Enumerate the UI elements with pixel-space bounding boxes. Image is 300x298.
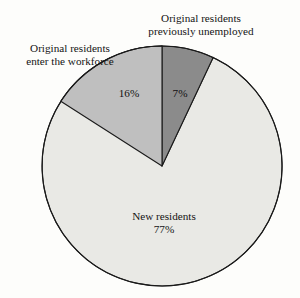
slice-label-previously-unemployed: Original residents previously unemployed <box>126 12 276 39</box>
slice-label-enter-workforce: Original residents enter the workforce <box>2 42 138 69</box>
slice-label-new-residents-line1: New residents <box>108 210 220 223</box>
slice-label-previously-unemployed-line2: previously unemployed <box>126 25 276 38</box>
chart-canvas: Original residents previously unemployed… <box>0 0 300 298</box>
slice-label-enter-workforce-line1: Original residents <box>2 42 138 55</box>
slice-label-new-residents: New residents 77% <box>108 210 220 237</box>
slice-value-previously-unemployed: 7% <box>166 87 194 100</box>
slice-label-previously-unemployed-line1: Original residents <box>126 12 276 25</box>
slice-label-new-residents-value: 77% <box>108 223 220 236</box>
slice-label-enter-workforce-line2: enter the workforce <box>2 55 138 68</box>
slice-value-enter-workforce: 16% <box>112 87 146 100</box>
